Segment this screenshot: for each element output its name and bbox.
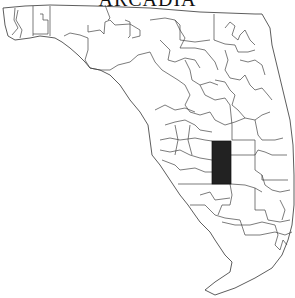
- florida-county-map: [0, 0, 295, 298]
- highlighted-county-desoto: [212, 141, 231, 184]
- florida-state-outline: [3, 5, 294, 295]
